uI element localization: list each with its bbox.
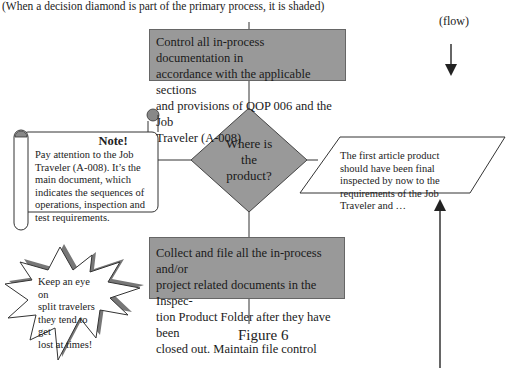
note-line: main document, which [35, 174, 160, 187]
process-line: and provisions of QOP 006 and the Job [156, 98, 339, 130]
decision-label: Where is the product? [219, 136, 279, 184]
star-line: lost at times! [38, 339, 100, 352]
process-line: project related documents in the Inspec- [156, 277, 338, 309]
starburst-text: Keep an eye on split travelers they tend… [38, 276, 100, 351]
flow-label: (flow) [439, 14, 469, 29]
star-line: they tend to get [38, 314, 100, 339]
note-line: indicates the sequences of [35, 187, 160, 200]
note-line: Pay attention to the Job [35, 149, 160, 162]
diagram-caption: (When a decision diamond is part of the … [2, 0, 324, 12]
data-line: should have been final [340, 163, 475, 176]
decision-line: Where is [219, 136, 279, 152]
process-box-collect-file: Collect and file all the in-process and/… [149, 237, 345, 299]
process-box-control-documentation: Control all in-process documentation in … [149, 29, 346, 81]
data-line: inspected by now to the [340, 175, 475, 188]
figure-label: Figure 6 [238, 327, 288, 344]
star-line: Keep an eye on [38, 276, 100, 301]
decision-line: product? [219, 168, 279, 184]
data-line: The first article product [340, 150, 475, 163]
note-line: Traveler (A-008). It’s the [35, 162, 160, 175]
note-line: operations, inspection and [35, 199, 160, 212]
process-line: Control all in-process documentation in [156, 34, 339, 66]
decision-line: the [219, 152, 279, 168]
data-line: requirements of the Job [340, 188, 475, 201]
note-body: Pay attention to the Job Traveler (A-008… [35, 149, 160, 224]
data-box-text: The first article product should have be… [340, 150, 475, 213]
note-line: test requirements. [35, 212, 160, 225]
process-line: Collect and file all the in-process and/… [156, 245, 338, 277]
star-line: split travelers [38, 301, 100, 314]
data-line: Traveler and … [340, 200, 475, 213]
note-title: Note! [58, 134, 168, 149]
process-line: accordance with the applicable sections [156, 66, 339, 98]
